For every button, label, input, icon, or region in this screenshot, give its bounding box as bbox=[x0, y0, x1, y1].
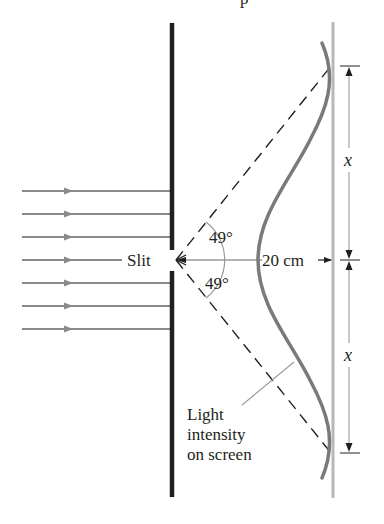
intensity-label-line3: on screen bbox=[187, 445, 252, 464]
angle-label-lower: 49° bbox=[205, 274, 229, 293]
arrow-right-icon bbox=[64, 188, 73, 195]
arrow-down-icon bbox=[346, 443, 353, 452]
arrow-right-icon bbox=[324, 257, 332, 263]
intensity-leader-line bbox=[242, 362, 294, 405]
dashed-line-upper bbox=[176, 66, 331, 260]
arrow-right-icon bbox=[64, 211, 73, 218]
arrow-up-icon bbox=[346, 67, 353, 76]
arrow-right-icon bbox=[64, 234, 73, 241]
intensity-label-line1: Light bbox=[187, 405, 224, 424]
slit-label: Slit bbox=[127, 251, 151, 270]
arrow-right-icon bbox=[64, 326, 73, 333]
arrow-down-icon bbox=[346, 250, 353, 259]
dimension-label-lower: x bbox=[343, 345, 352, 365]
ray-arrowheads bbox=[64, 188, 73, 333]
arrow-right-icon bbox=[64, 303, 73, 310]
intensity-label-line2: intensity bbox=[187, 425, 246, 444]
arrow-right-icon bbox=[64, 280, 73, 287]
top-text-fragment: p bbox=[240, 0, 249, 8]
dimension-label-upper: x bbox=[343, 150, 352, 170]
angle-label-upper: 49° bbox=[209, 228, 233, 247]
arrow-right-icon bbox=[64, 257, 73, 264]
distance-label: 20 cm bbox=[262, 251, 304, 270]
single-slit-diffraction-diagram: p Slit 49° 49° 20 cm bbox=[0, 0, 384, 524]
arrow-up-icon bbox=[346, 261, 353, 270]
dimension-markers bbox=[340, 66, 360, 453]
